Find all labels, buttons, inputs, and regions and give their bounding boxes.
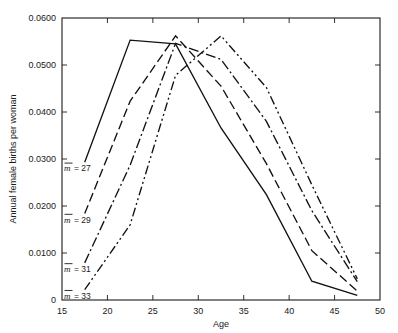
y-tick-label: 0 <box>51 295 56 305</box>
series-line-1 <box>85 36 358 291</box>
y-tick-label: 0.0300 <box>28 154 56 164</box>
x-axis-ticks-top <box>107 18 334 23</box>
line-chart: 1520253035404550 00.01000.02000.03000.04… <box>0 0 398 333</box>
series-label-value: = 31 <box>74 264 91 274</box>
series-line-3 <box>85 36 358 290</box>
series-line-0 <box>85 40 358 295</box>
x-tick-label: 20 <box>102 306 112 316</box>
y-axis-tick-labels: 00.01000.02000.03000.04000.05000.0600 <box>28 13 56 305</box>
x-tick-label: 30 <box>193 306 203 316</box>
series-label-variable: m <box>64 163 71 173</box>
x-axis-title: Age <box>213 319 229 329</box>
series-label-3: m = 33 <box>64 290 91 300</box>
x-tick-label: 50 <box>375 306 385 316</box>
series-label-value: = 27 <box>74 163 91 173</box>
series-inline-labels: m = 27m = 29m = 31m = 33 <box>64 163 91 301</box>
y-tick-label: 0.0600 <box>28 13 56 23</box>
series-label-value: = 29 <box>74 215 91 225</box>
series-label-2: m = 31 <box>64 264 91 274</box>
x-tick-label: 15 <box>57 306 67 316</box>
series-label-variable: m <box>64 215 71 225</box>
chart-figure: 1520253035404550 00.01000.02000.03000.04… <box>0 0 398 333</box>
series-label-1: m = 29 <box>64 214 91 224</box>
x-tick-label: 40 <box>284 306 294 316</box>
series-label-0: m = 27 <box>64 163 91 173</box>
y-tick-label: 0.0200 <box>28 201 56 211</box>
y-axis-title: Annual female births per woman <box>8 94 18 223</box>
series-label-variable: m <box>64 264 71 274</box>
y-tick-label: 0.0400 <box>28 107 56 117</box>
y-axis-ticks-left <box>62 65 67 253</box>
x-tick-label: 35 <box>239 306 249 316</box>
plot-frame <box>62 18 380 300</box>
x-tick-label: 45 <box>330 306 340 316</box>
y-axis-ticks-right <box>375 65 380 253</box>
series-line-2 <box>85 43 358 281</box>
y-tick-label: 0.0100 <box>28 248 56 258</box>
data-curves <box>85 36 358 295</box>
x-tick-label: 25 <box>148 306 158 316</box>
x-axis-ticks-bottom <box>107 295 334 300</box>
series-label-variable: m <box>64 291 71 301</box>
x-axis-tick-labels: 1520253035404550 <box>57 306 385 316</box>
series-label-value: = 33 <box>74 291 91 301</box>
y-tick-label: 0.0500 <box>28 60 56 70</box>
